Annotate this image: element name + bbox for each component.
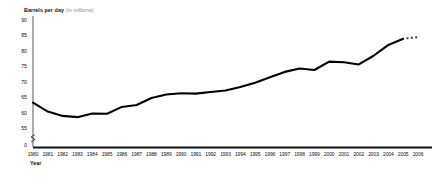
projection-dots	[407, 36, 418, 39]
axis-break-icon	[31, 135, 35, 143]
projection-dot	[411, 37, 413, 39]
projection-dot	[415, 36, 417, 38]
line-chart: Barrels per day (in millions) 9085807570…	[0, 0, 448, 178]
data-series-line	[33, 39, 403, 117]
plot-area	[0, 0, 448, 178]
projection-dot	[407, 37, 409, 39]
